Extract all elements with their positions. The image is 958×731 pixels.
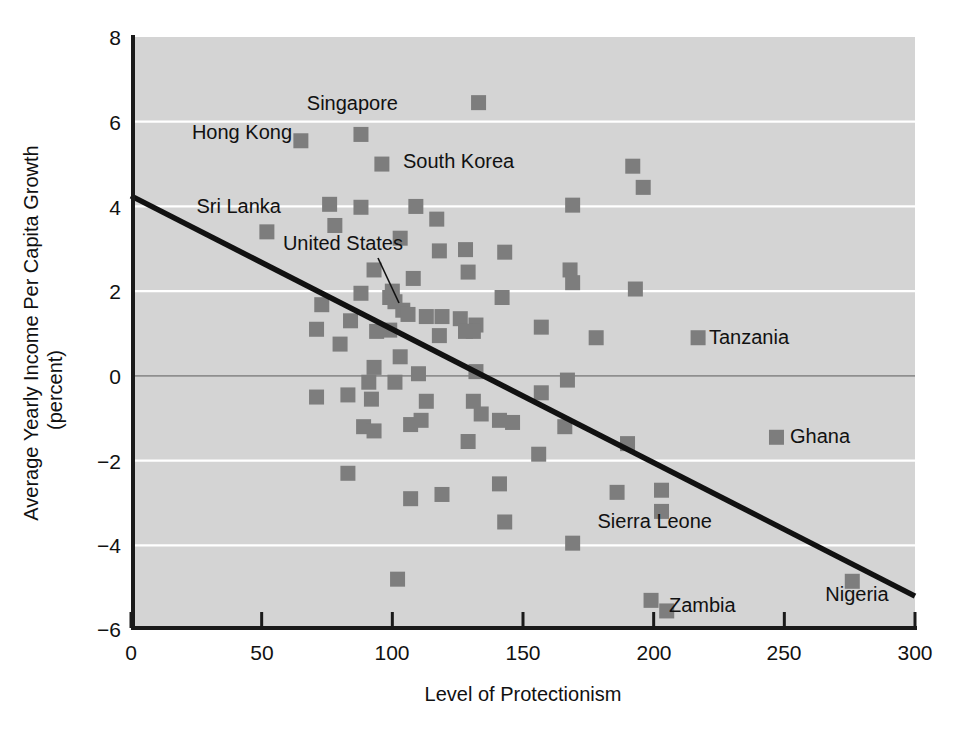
data-point [636, 180, 651, 195]
data-point [461, 265, 476, 280]
label-sierra-leone: Sierra Leone [597, 510, 712, 532]
data-point [367, 262, 382, 277]
data-point [327, 218, 342, 233]
data-point [492, 476, 507, 491]
scatter-chart-figure: 0 50 100 150 200 250 300 8 6 4 2 0 −2 −4… [0, 0, 958, 731]
data-point [353, 200, 368, 215]
data-point-ghana [769, 430, 784, 445]
x-tick-label-0: 0 [125, 641, 137, 664]
data-point [466, 324, 481, 339]
data-point [419, 394, 434, 409]
label-ghana: Ghana [790, 425, 851, 447]
data-point [343, 313, 358, 328]
y-tick-label-6: 6 [109, 111, 121, 134]
data-point [353, 286, 368, 301]
data-point [364, 392, 379, 407]
data-point [411, 366, 426, 381]
data-point [534, 385, 549, 400]
data-point [534, 320, 549, 335]
label-nigeria: Nigeria [825, 583, 889, 605]
data-point [565, 536, 580, 551]
chart-canvas: 0 50 100 150 200 250 300 8 6 4 2 0 −2 −4… [0, 0, 958, 731]
y-tick-label-8: 8 [109, 26, 121, 49]
data-point [403, 491, 418, 506]
data-point [393, 349, 408, 364]
data-point [497, 514, 512, 529]
data-point [432, 328, 447, 343]
y-axis-title-line1: Average Yearly Income Per Capita Growth [20, 145, 42, 520]
data-point [492, 413, 507, 428]
data-point-hong-kong [293, 133, 308, 148]
data-point [390, 572, 405, 587]
data-point-sri-lanka [259, 224, 274, 239]
data-point [434, 309, 449, 324]
data-point [432, 243, 447, 258]
data-point [565, 198, 580, 213]
data-point [628, 282, 643, 297]
y-tick-label-neg2: −2 [97, 450, 121, 473]
y-axis-title-line2: (percent) [44, 350, 66, 430]
data-point [309, 390, 324, 405]
label-united-states: United States [283, 232, 403, 254]
data-point [497, 245, 512, 260]
x-axis-title: Level of Protectionism [425, 683, 622, 705]
data-point-south-korea [374, 157, 389, 172]
x-tick-label-150: 150 [505, 641, 540, 664]
x-tick-label-250: 250 [766, 641, 801, 664]
label-zambia: Zambia [669, 594, 737, 616]
data-point [419, 309, 434, 324]
data-point [495, 290, 510, 305]
data-point [414, 413, 429, 428]
data-point-singapore [353, 127, 368, 142]
data-point [406, 271, 421, 286]
data-point [401, 307, 416, 322]
data-point [322, 197, 337, 212]
label-south-korea: South Korea [403, 150, 515, 172]
y-tick-label-neg6: −6 [97, 618, 121, 641]
data-point [644, 593, 659, 608]
x-tick-label-100: 100 [374, 641, 409, 664]
data-point [560, 373, 575, 388]
data-point [589, 330, 604, 345]
data-point [471, 95, 486, 110]
data-point [340, 387, 355, 402]
data-point [361, 375, 376, 390]
y-tick-label-0: 0 [109, 365, 121, 388]
data-point [505, 415, 520, 430]
data-point [531, 447, 546, 462]
data-point [387, 375, 402, 390]
data-point-tanzania [691, 330, 706, 345]
x-tick-label-50: 50 [250, 641, 273, 664]
data-point [333, 337, 348, 352]
data-point [565, 275, 580, 290]
data-point [340, 466, 355, 481]
label-tanzania: Tanzania [709, 326, 790, 348]
data-point [434, 487, 449, 502]
data-point [461, 434, 476, 449]
data-point [367, 360, 382, 375]
x-tick-label-200: 200 [636, 641, 671, 664]
data-point [367, 423, 382, 438]
y-tick-label-neg4: −4 [97, 534, 121, 557]
data-point [458, 242, 473, 257]
label-sri-lanka: Sri Lanka [197, 195, 282, 217]
label-singapore: Singapore [307, 92, 398, 114]
x-tick-label-300: 300 [897, 641, 932, 664]
data-point [309, 322, 324, 337]
data-point [314, 297, 329, 312]
data-point [625, 159, 640, 174]
data-point [408, 199, 423, 214]
y-tick-label-4: 4 [109, 196, 121, 219]
data-point-sierra-leone [654, 483, 669, 498]
data-point [610, 485, 625, 500]
y-tick-label-2: 2 [109, 280, 121, 303]
label-hong-kong: Hong Kong [192, 121, 292, 143]
data-point [474, 406, 489, 421]
data-point [429, 212, 444, 227]
